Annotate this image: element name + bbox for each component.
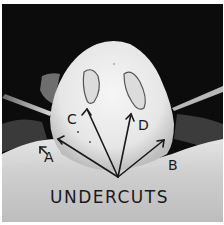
label-b: B xyxy=(168,157,178,173)
label-a: A xyxy=(44,149,54,165)
nose-cast-scene: C D A B UNDERCUTS xyxy=(2,4,223,222)
undercuts-caption: UNDERCUTS xyxy=(50,187,169,207)
label-d: D xyxy=(138,117,149,133)
photograph: C D A B UNDERCUTS xyxy=(2,4,223,222)
label-c: C xyxy=(67,111,77,127)
